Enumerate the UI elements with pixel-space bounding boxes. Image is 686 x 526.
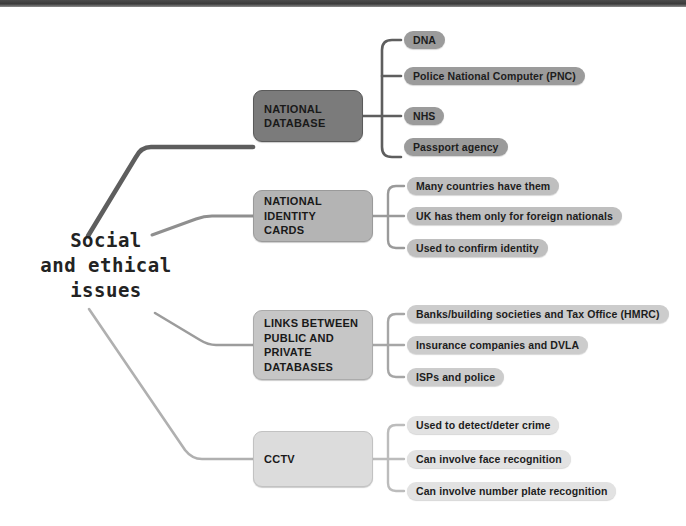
root-title: Social and ethical issues: [8, 228, 204, 303]
branch-node-links-between-databases[interactable]: LINKS BETWEEN PUBLIC AND PRIVATE DATABAS…: [253, 310, 373, 380]
leaf-pill[interactable]: Insurance companies and DVLA: [407, 336, 588, 354]
branch-node-national-database[interactable]: NATIONAL DATABASE: [253, 90, 363, 142]
leaf-pill[interactable]: Banks/building societies and Tax Office …: [407, 305, 669, 323]
branch-node-cctv[interactable]: CCTV: [253, 431, 373, 487]
leaf-pill[interactable]: Police National Computer (PNC): [404, 67, 585, 85]
branch-fan-1: [382, 40, 401, 157]
trunk-line-national-database: [88, 147, 253, 236]
branch-node-national-identity-cards[interactable]: NATIONAL IDENTITY CARDS: [253, 190, 373, 242]
trunk-line-cctv: [89, 309, 253, 459]
leaf-pill[interactable]: UK has them only for foreign nationals: [407, 207, 622, 225]
leaf-pill[interactable]: Many countries have them: [407, 177, 559, 195]
leaf-pill[interactable]: Used to detect/deter crime: [407, 416, 559, 434]
leaf-pill[interactable]: ISPs and police: [407, 368, 504, 386]
leaf-pill[interactable]: NHS: [404, 107, 444, 125]
leaf-pill[interactable]: Passport agency: [404, 138, 508, 156]
mindmap-canvas: Social and ethical issues NATIONAL DATAB…: [0, 0, 686, 526]
leaf-pill[interactable]: Can involve number plate recognition: [407, 482, 616, 500]
trunk-line-links-between-databases: [155, 313, 253, 345]
leaf-pill[interactable]: Can involve face recognition: [407, 450, 571, 468]
leaf-pill[interactable]: DNA: [404, 31, 445, 49]
leaf-pill[interactable]: Used to confirm identity: [407, 239, 548, 257]
